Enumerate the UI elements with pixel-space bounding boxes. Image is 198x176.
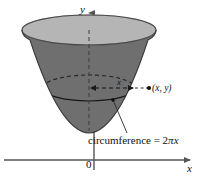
caption-variable: x bbox=[174, 134, 179, 146]
caption-leader-dot bbox=[111, 98, 115, 102]
radius-length-label: x bbox=[117, 78, 121, 87]
caption-text-part: circumference = 2 bbox=[88, 134, 168, 146]
x-axis-label: x bbox=[187, 163, 192, 174]
paraboloid-figure: y x 0 (x, y) x circumference = 2πx bbox=[0, 0, 198, 176]
circumference-caption: circumference = 2πx bbox=[88, 135, 179, 146]
origin-label: 0 bbox=[86, 159, 92, 170]
y-axis-label: y bbox=[80, 4, 85, 15]
point-coordinates-label: (x, y) bbox=[152, 84, 172, 94]
